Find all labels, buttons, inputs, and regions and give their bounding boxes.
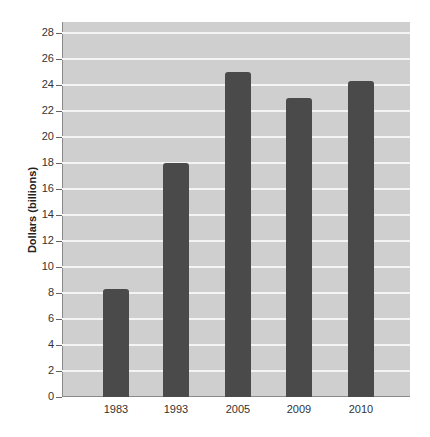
- y-tick-mark: [56, 189, 62, 190]
- y-tick-mark: [56, 59, 62, 60]
- x-tick-label: 1993: [151, 403, 201, 415]
- y-tick-label: 24: [20, 78, 54, 90]
- x-tick-label: 1983: [91, 403, 141, 415]
- y-tick-label: 22: [20, 104, 54, 116]
- y-tick-mark: [56, 345, 62, 346]
- y-tick-label: 2: [20, 364, 54, 376]
- bar-2005: [225, 72, 251, 397]
- bar-1993: [163, 163, 189, 397]
- y-tick-label: 20: [20, 130, 54, 142]
- bar-chart: 0246810121416182022242628198319932005200…: [0, 0, 430, 437]
- bar-2009: [286, 98, 312, 397]
- y-tick-label: 8: [20, 286, 54, 298]
- x-tick-label: 2009: [274, 403, 324, 415]
- y-tick-mark: [56, 319, 62, 320]
- y-tick-label: 26: [20, 52, 54, 64]
- gridline: [62, 58, 410, 60]
- y-tick-mark: [56, 267, 62, 268]
- bar-2010: [348, 81, 374, 397]
- bar-1983: [103, 289, 129, 397]
- x-tick-label: 2010: [336, 403, 386, 415]
- y-tick-mark: [56, 33, 62, 34]
- y-tick-mark: [56, 137, 62, 138]
- y-tick-mark: [56, 293, 62, 294]
- gridline: [62, 32, 410, 34]
- x-tick-label: 2005: [213, 403, 263, 415]
- y-tick-label: 6: [20, 312, 54, 324]
- y-tick-mark: [56, 85, 62, 86]
- y-tick-mark: [56, 163, 62, 164]
- y-tick-mark: [56, 397, 62, 398]
- y-tick-mark: [56, 215, 62, 216]
- y-tick-label: 0: [20, 390, 54, 402]
- y-tick-mark: [56, 111, 62, 112]
- y-tick-label: 28: [20, 26, 54, 38]
- y-tick-label: 4: [20, 338, 54, 350]
- y-tick-mark: [56, 371, 62, 372]
- y-axis-title: Dollars (billions): [26, 167, 38, 253]
- y-tick-mark: [56, 241, 62, 242]
- y-tick-label: 10: [20, 260, 54, 272]
